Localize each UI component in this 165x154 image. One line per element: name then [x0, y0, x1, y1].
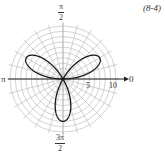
polar-plot [0, 0, 165, 154]
radial-tick-5: 5 [86, 82, 90, 90]
angle-label-pi-over-2: π 2 [58, 3, 64, 22]
figure-label: (8-4) [143, 3, 161, 13]
angle-label-pi: π [1, 75, 6, 84]
angle-label-0: 0 [129, 75, 134, 84]
angle-label-3pi-over-2: 3π 2 [55, 134, 65, 153]
radial-tick-10: 10 [109, 82, 117, 90]
